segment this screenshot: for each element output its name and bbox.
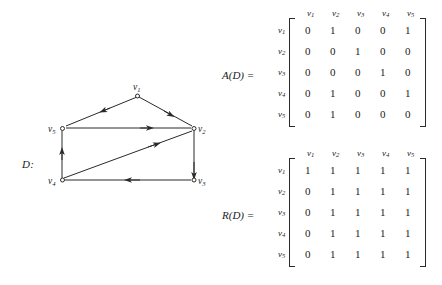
adjacency-col-headers: v1 v2 v3 v4 v5 xyxy=(289,8,426,18)
adjacency-matrix-block: A(D) = v1 v2 v3 v4 v5 v1 v2 v3 v4 v5 xyxy=(222,8,426,127)
row-header: v5 xyxy=(259,244,289,265)
row-header: v5 xyxy=(259,104,289,125)
matrix-cell: 0 xyxy=(295,223,320,244)
matrix-cell: 1 xyxy=(345,202,370,223)
matrix-cell: 1 xyxy=(370,223,395,244)
adjacency-matrix-body: v1 v2 v3 v4 v5 0 1 0 0 1 0 xyxy=(259,18,426,127)
col-header: v2 xyxy=(323,8,348,18)
matrix-cell: 1 xyxy=(295,160,320,181)
vertex-v3 xyxy=(192,178,196,182)
vertex-label-v5: v5 xyxy=(48,124,56,135)
col-header: v4 xyxy=(373,8,398,18)
matrix-cell: 0 xyxy=(295,41,320,62)
matrix-row: 0 1 1 1 1 xyxy=(295,244,420,265)
matrix-cell: 0 xyxy=(370,20,395,41)
matrix-cell: 1 xyxy=(370,160,395,181)
matrix-right-bracket xyxy=(420,158,426,267)
matrix-cell: 0 xyxy=(370,41,395,62)
matrix-row: 0 1 0 0 1 xyxy=(295,20,420,41)
matrix-left-bracket xyxy=(289,18,295,127)
matrix-cell: 1 xyxy=(345,41,370,62)
matrix-cell: 0 xyxy=(295,62,320,83)
row-header: v3 xyxy=(259,202,289,223)
matrix-left-bracket xyxy=(289,158,295,267)
vertex-v2 xyxy=(192,127,196,131)
matrix-cell: 0 xyxy=(345,83,370,104)
matrix-cell: 1 xyxy=(395,83,420,104)
matrix-cell: 0 xyxy=(295,202,320,223)
matrix-row: 0 1 1 1 1 xyxy=(295,202,420,223)
edge-v1-v5-arrow xyxy=(103,108,110,111)
matrix-cell: 1 xyxy=(395,244,420,265)
matrix-row: 0 1 0 0 0 xyxy=(295,104,420,125)
figure-page: D: xyxy=(0,0,442,285)
matrix-row: 1 1 1 1 1 xyxy=(295,160,420,181)
matrix-cell: 0 xyxy=(395,62,420,83)
matrix-cell: 1 xyxy=(320,202,345,223)
matrix-cell: 0 xyxy=(345,62,370,83)
vertex-label-v3: v3 xyxy=(198,176,206,187)
adjacency-matrix-cells: 0 1 0 0 1 0 0 1 0 0 0 0 xyxy=(295,18,420,127)
matrix-cell: 1 xyxy=(345,244,370,265)
edge-v4-v2-arrow xyxy=(148,144,157,147)
matrix-cell: 0 xyxy=(395,104,420,125)
reachability-matrix-block: R(D) = v1 v2 v3 v4 v5 v1 v2 v3 v4 v5 xyxy=(222,148,426,267)
matrix-cell: 0 xyxy=(395,41,420,62)
row-header: v2 xyxy=(259,41,289,62)
matrix-cell: 0 xyxy=(295,20,320,41)
adjacency-matrix-core: v1 v2 v3 v4 v5 v1 v2 v3 v4 v5 0 1 xyxy=(259,8,426,127)
matrix-row: 0 1 1 1 1 xyxy=(295,181,420,202)
matrix-cell: 1 xyxy=(345,160,370,181)
matrix-cell: 0 xyxy=(295,104,320,125)
reachability-matrix-cells: 1 1 1 1 1 0 1 1 1 1 0 1 xyxy=(295,158,420,267)
vertex-v1 xyxy=(136,94,140,98)
vertex-label-v2: v2 xyxy=(198,124,206,135)
matrix-cell: 0 xyxy=(295,181,320,202)
matrix-cell: 1 xyxy=(395,181,420,202)
matrix-cell: 0 xyxy=(320,62,345,83)
matrix-cell: 1 xyxy=(345,223,370,244)
reachability-matrix-core: v1 v2 v3 v4 v5 v1 v2 v3 v4 v5 1 1 xyxy=(259,148,426,267)
col-header: v2 xyxy=(323,148,348,158)
matrix-right-bracket xyxy=(420,18,426,127)
row-header: v3 xyxy=(259,62,289,83)
digraph-panel: D: xyxy=(0,0,215,285)
matrix-cell: 0 xyxy=(295,244,320,265)
col-header: v3 xyxy=(348,8,373,18)
matrix-cell: 1 xyxy=(395,223,420,244)
matrix-row: 0 1 0 0 1 xyxy=(295,83,420,104)
matrix-cell: 1 xyxy=(320,104,345,125)
matrix-cell: 1 xyxy=(320,160,345,181)
matrix-cell: 1 xyxy=(370,244,395,265)
matrix-cell: 1 xyxy=(395,160,420,181)
matrix-cell: 1 xyxy=(370,62,395,83)
matrix-cell: 1 xyxy=(320,244,345,265)
matrix-row: 0 0 0 1 0 xyxy=(295,62,420,83)
matrix-cell: 0 xyxy=(345,20,370,41)
edge-v1-v2-arrow xyxy=(164,111,171,115)
adjacency-row-headers: v1 v2 v3 v4 v5 xyxy=(259,18,289,127)
row-header: v1 xyxy=(259,160,289,181)
col-header: v1 xyxy=(298,148,323,158)
matrix-cell: 1 xyxy=(320,223,345,244)
matrix-cell: 0 xyxy=(320,41,345,62)
matrix-cell: 1 xyxy=(370,202,395,223)
row-header: v4 xyxy=(259,83,289,104)
col-header: v4 xyxy=(373,148,398,158)
vertex-v4 xyxy=(61,178,65,182)
matrix-cell: 0 xyxy=(295,83,320,104)
vertex-label-v4: v4 xyxy=(48,176,56,187)
edge-v4-v2 xyxy=(64,131,192,178)
col-header: v5 xyxy=(398,8,423,18)
matrix-cell: 1 xyxy=(320,20,345,41)
matrix-cell: 1 xyxy=(395,20,420,41)
row-header: v2 xyxy=(259,181,289,202)
vertex-v5 xyxy=(61,127,65,131)
matrix-cell: 1 xyxy=(320,181,345,202)
matrix-cell: 1 xyxy=(320,83,345,104)
matrix-cell: 1 xyxy=(395,202,420,223)
matrix-cell: 0 xyxy=(370,83,395,104)
matrix-row: 0 1 1 1 1 xyxy=(295,223,420,244)
matrix-cell: 1 xyxy=(370,181,395,202)
row-header: v4 xyxy=(259,223,289,244)
